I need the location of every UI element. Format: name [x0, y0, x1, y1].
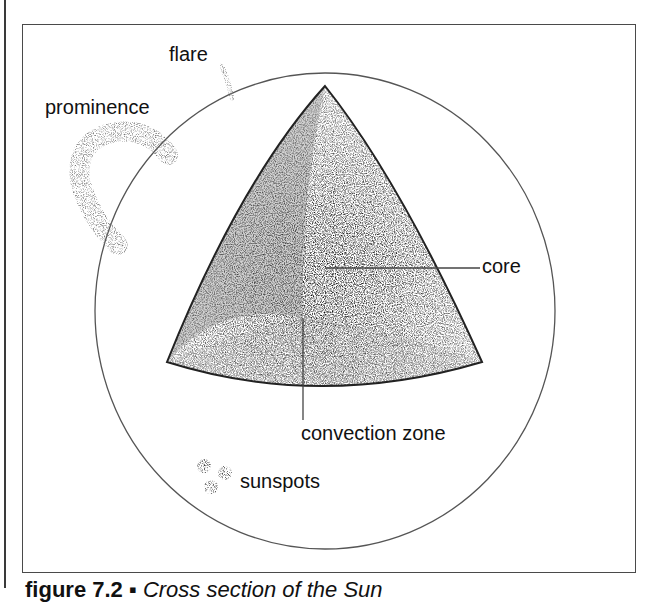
caption-text: Cross section of the Sun [143, 577, 383, 602]
label-sunspots: sunspots [240, 471, 320, 491]
figure-caption: figure 7.2 ▪ Cross section of the Sun [25, 579, 383, 601]
prominence-icon [79, 131, 168, 245]
sunspots-icon [197, 459, 232, 494]
caption-bullet: ▪ [129, 577, 137, 602]
label-convection-zone: convection zone [301, 423, 446, 443]
flare-icon [222, 66, 232, 98]
label-core: core [482, 256, 521, 276]
label-flare: flare [169, 44, 208, 64]
figure-number: figure 7.2 [25, 577, 123, 602]
label-prominence: prominence [45, 97, 150, 117]
cutaway-wedge [160, 80, 490, 410]
